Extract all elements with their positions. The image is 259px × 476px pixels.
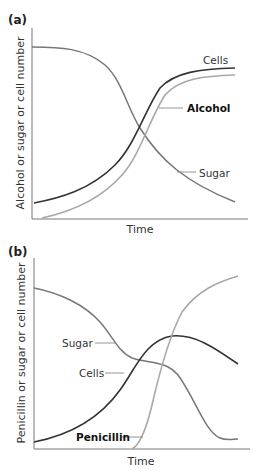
- panel-a-x-axis-title: Time: [126, 223, 154, 236]
- panel-a-cells-line: [34, 68, 235, 203]
- panel-a: (a) Alcohol or sugar or cell number Time…: [8, 13, 248, 236]
- panel-a-alcohol-label: Alcohol: [187, 102, 230, 114]
- panel-b-label: (b): [8, 245, 28, 259]
- figure: (a) Alcohol or sugar or cell number Time…: [0, 0, 259, 476]
- panel-a-cells-label: Cells: [203, 54, 228, 66]
- panel-b-axes: [34, 258, 250, 449]
- panel-a-y-axis-title: Alcohol or sugar or cell number: [14, 36, 27, 209]
- panel-a-alcohol-line: [42, 75, 235, 218]
- panel-b-y-axis-title: Penicillin or sugar or cell number: [15, 262, 28, 444]
- panel-b-cells-label: Cells: [79, 367, 104, 379]
- panel-b-sugar-label: Sugar: [62, 337, 93, 349]
- panel-b-penicillin-label: Penicillin: [76, 431, 130, 443]
- panel-b-x-axis-title: Time: [127, 455, 155, 468]
- panel-a-sugar-label: Sugar: [199, 167, 230, 179]
- panel-b: (b) Penicillin or sugar or cell number T…: [8, 245, 250, 468]
- panel-a-label: (a): [8, 13, 27, 27]
- panel-b-penicillin-line: [132, 276, 238, 449]
